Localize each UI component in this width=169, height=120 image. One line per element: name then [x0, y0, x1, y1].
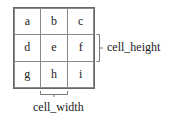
- cell-height-label: cell_height: [107, 40, 160, 55]
- cell-width-label: cell_width: [33, 100, 84, 115]
- cell-width-bracket: [41, 91, 68, 97]
- cell-height-bracket: [97, 35, 104, 62]
- dimension-brackets: [0, 0, 169, 120]
